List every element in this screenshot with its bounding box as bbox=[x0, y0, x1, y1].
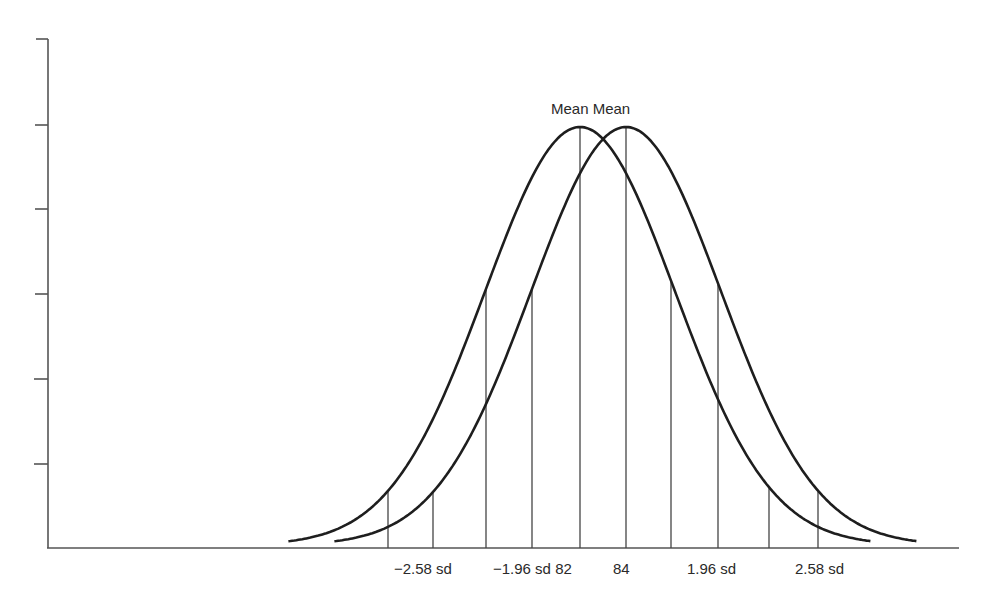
label-neg-1-96-sd-82: −1.96 sd 82 bbox=[493, 560, 572, 577]
reference-lines bbox=[388, 128, 818, 548]
mean-labels: Mean Mean bbox=[551, 100, 630, 117]
label-84: 84 bbox=[613, 560, 630, 577]
chart: Mean Mean −2.58 sd −1.96 sd 82 84 1.96 s… bbox=[0, 0, 989, 601]
label-pos-2-58-sd: 2.58 sd bbox=[795, 560, 844, 577]
y-axis-ticks bbox=[34, 39, 48, 464]
label-pos-1-96-sd: 1.96 sd bbox=[687, 560, 736, 577]
label-neg-2-58-sd: −2.58 sd bbox=[394, 560, 452, 577]
